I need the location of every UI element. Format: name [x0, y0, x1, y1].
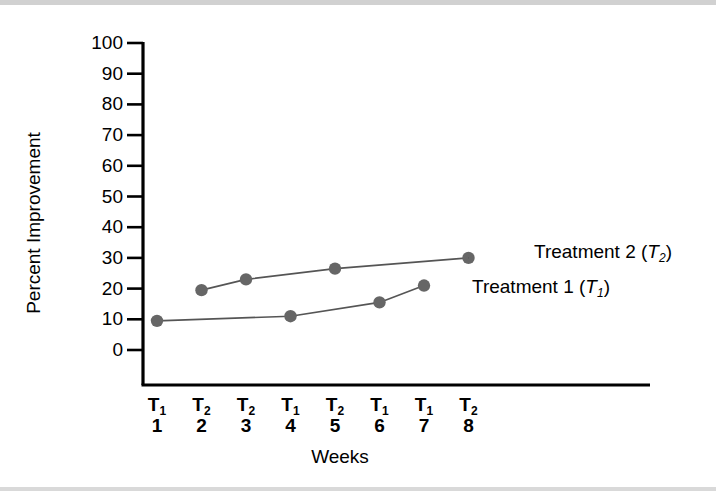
x-tick-week-number: 6 [357, 415, 403, 437]
x-tick-treatment-label: T1 [134, 395, 180, 415]
data-point-marker [373, 296, 385, 308]
x-tick-treatment-label: T2 [223, 395, 269, 415]
x-tick-week-number: 4 [268, 415, 314, 437]
treatment-symbol: T [148, 394, 160, 415]
axes-layer [142, 42, 651, 385]
y-tick-label: 20 [69, 279, 123, 298]
treatment-symbol: T [281, 394, 293, 415]
data-point-marker [329, 262, 341, 274]
x-tick-week-number: 7 [401, 415, 447, 437]
treatment-subscript: 1 [159, 404, 166, 418]
data-point-marker [284, 310, 296, 322]
treatment-symbol: T [192, 394, 204, 415]
treatment-symbol: T [415, 394, 427, 415]
treatment-subscript: 1 [426, 404, 433, 418]
treatment-subscript: 2 [337, 404, 344, 418]
series-label-tail: ) [604, 276, 610, 297]
series-label-text: Treatment 2 ( [534, 241, 647, 262]
y-tick-label: 80 [69, 94, 123, 113]
treatment-symbol: T [326, 394, 338, 415]
x-axis-title: Weeks [150, 446, 530, 468]
x-tick-label-group: T14 [268, 395, 314, 437]
series-label-text: Treatment 1 ( [472, 276, 585, 297]
series-label-subscript: 1 [597, 286, 604, 300]
series-label-tail: ) [666, 241, 672, 262]
y-axis-title: Percent Improvement [23, 123, 45, 323]
treatment-symbol: T [237, 394, 249, 415]
x-tick-label-group: T23 [223, 395, 269, 437]
x-tick-week-number: 2 [179, 415, 225, 437]
x-tick-label-group: T17 [401, 395, 447, 437]
series-label-symbol: T [647, 241, 659, 262]
series-label-symbol: T [585, 276, 597, 297]
treatment-subscript: 1 [382, 404, 389, 418]
data-point-marker [418, 279, 430, 291]
x-tick-week-number: 5 [312, 415, 358, 437]
treatment-subscript: 2 [471, 404, 478, 418]
series-label-subscript: 2 [659, 251, 666, 265]
y-tick-label: 100 [69, 33, 123, 52]
treatment-subscript: 2 [204, 404, 211, 418]
y-tick-label: 90 [69, 64, 123, 83]
x-tick-label-group: T22 [179, 395, 225, 437]
treatment-symbol: T [370, 394, 382, 415]
x-tick-treatment-label: T2 [446, 395, 492, 415]
data-point-marker [195, 284, 207, 296]
data-point-marker [151, 315, 163, 327]
y-tick-label: 50 [69, 187, 123, 206]
y-tick-label: 0 [69, 340, 123, 359]
x-tick-week-number: 3 [223, 415, 269, 437]
x-tick-treatment-label: T1 [401, 395, 447, 415]
treatment-subscript: 2 [248, 404, 255, 418]
x-tick-label-group: T25 [312, 395, 358, 437]
series-label-treatment-1: Treatment 1 (T1) [472, 276, 610, 298]
data-point-marker [240, 273, 252, 285]
y-tick-label: 10 [69, 309, 123, 328]
x-tick-week-number: 1 [134, 415, 180, 437]
series-label-treatment-2: Treatment 2 (T2) [534, 241, 672, 263]
treatment-symbol: T [459, 394, 471, 415]
treatment-subscript: 1 [293, 404, 300, 418]
x-tick-treatment-label: T1 [357, 395, 403, 415]
y-tick-label: 40 [69, 217, 123, 236]
x-tick-label-group: T11 [134, 395, 180, 437]
x-tick-treatment-label: T2 [179, 395, 225, 415]
y-tick-label: 30 [69, 248, 123, 267]
x-tick-treatment-label: T1 [268, 395, 314, 415]
y-tick-label: 70 [69, 125, 123, 144]
x-tick-treatment-label: T2 [312, 395, 358, 415]
y-tick-label: 60 [69, 156, 123, 175]
figure-canvas: Percent Improvement Weeks 01020304050607… [0, 0, 716, 499]
x-tick-week-number: 8 [446, 415, 492, 437]
data-series-layer [151, 252, 475, 327]
axis-tick-marks [127, 43, 143, 350]
x-tick-label-group: T16 [357, 395, 403, 437]
x-tick-label-group: T28 [446, 395, 492, 437]
